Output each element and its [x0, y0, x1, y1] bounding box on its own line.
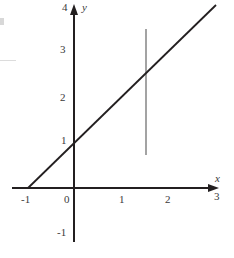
x-tick-label-1: 1	[119, 194, 125, 205]
x-tick-label-2: 2	[165, 194, 171, 205]
y-axis-arrowhead	[70, 4, 78, 15]
y-tick-label-4: 4	[62, 2, 68, 13]
coordinate-plot	[0, 0, 234, 258]
x-tick-label-0: 0	[64, 194, 70, 205]
y-tick-label-1: 1	[61, 135, 67, 146]
y-axis-label: y	[82, 2, 87, 13]
function-line	[28, 5, 216, 188]
edge-artifact-line	[0, 60, 16, 61]
edge-artifact-dot	[0, 18, 4, 25]
y-tick-label-neg1: -1	[57, 227, 66, 238]
x-tick-label-neg1: -1	[21, 194, 30, 205]
y-tick-label-2: 2	[60, 92, 66, 103]
y-tick-label-3: 3	[60, 44, 66, 55]
graph-canvas: 4 y 3 2 1 -1 -1 0 1 2 3 x	[0, 0, 234, 258]
x-tick-label-3: 3	[214, 191, 220, 202]
x-axis-label: x	[215, 173, 220, 184]
